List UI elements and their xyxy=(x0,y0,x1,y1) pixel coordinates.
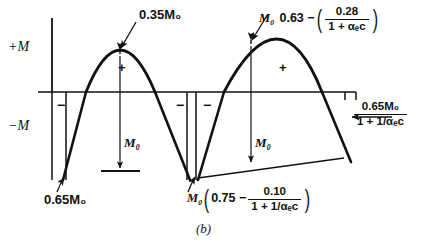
formula-bottom-numerator: 0.10 xyxy=(248,186,301,199)
moment-curve-span-1 xyxy=(63,50,190,180)
axis-label-positive-moment: +M xyxy=(8,40,29,54)
formula-peak2-lead: M₀ xyxy=(259,11,274,25)
formula-peak2-operator: − xyxy=(307,11,314,25)
formula-bottom-first-term: 0.75 xyxy=(211,191,235,205)
dimension-label-span-1: M₀ xyxy=(124,136,140,149)
sign-negative-interior-left: − xyxy=(176,98,184,112)
moment-curve-span-2 xyxy=(198,39,351,180)
formula-peak2-denominator: 1 + αₑᴄ xyxy=(325,19,368,33)
formula-peak-span-2: M₀0.63 −( 0.28 1 + αₑᴄ ) xyxy=(259,6,379,32)
formula-bottom-open-paren: ( xyxy=(204,187,209,212)
formula-bottom-close-paren: ) xyxy=(305,187,310,212)
bending-moment-diagram: +M −M 0.35M₀ M₀ M₀ 0.65M₀ + + − − − M₀0.… xyxy=(0,0,422,245)
annotation-left-support: 0.65M₀ xyxy=(44,193,86,206)
formula-peak2-first-term: 0.63 xyxy=(279,11,303,25)
sign-negative-left-support: − xyxy=(57,98,65,112)
sloped-reference-chord xyxy=(198,158,344,178)
sign-positive-span-2: + xyxy=(279,61,287,74)
formula-bottom-denominator: 1 + 1/αₑᴄ xyxy=(248,199,301,213)
formula-peak2-open-paren: ( xyxy=(316,7,321,32)
sign-negative-interior-right: − xyxy=(203,98,211,112)
formula-interior-support: M₀(0.75 − 0.10 1 + 1/αₑᴄ ) xyxy=(187,186,312,212)
dimension-label-span-2: M₀ xyxy=(255,136,271,149)
formula-bottom-lead: M₀ xyxy=(187,191,202,205)
formula-right-support: 0.65M₀ 1 + 1/αₑᴄ xyxy=(352,101,409,127)
formula-right-numerator: 0.65M₀ xyxy=(354,101,407,114)
peak1-text: 0.35M₀ xyxy=(139,7,181,22)
leader-line-peak-1 xyxy=(121,22,136,48)
axis-label-negative-moment: −M xyxy=(8,119,29,133)
formula-peak2-close-paren: ) xyxy=(372,7,377,32)
formula-right-denominator: 1 + 1/αₑᴄ xyxy=(354,114,407,128)
formula-peak2-numerator: 0.28 xyxy=(325,6,368,19)
sign-positive-span-1: + xyxy=(118,61,126,74)
annotation-peak-span-1: 0.35M₀ xyxy=(139,8,181,21)
figure-caption: (b) xyxy=(196,222,211,235)
leader-line-left-end xyxy=(57,178,64,192)
formula-bottom-operator: − xyxy=(239,191,246,205)
